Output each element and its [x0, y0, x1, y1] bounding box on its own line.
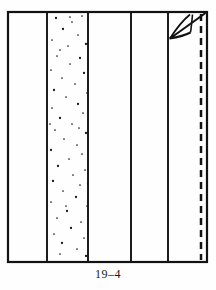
stipple-dot — [82, 112, 84, 114]
stipple-dot — [80, 221, 82, 223]
stipple-dot — [54, 129, 56, 131]
stipple-dot — [72, 174, 74, 176]
stipple-dot — [69, 16, 71, 18]
figure-root: 19–4 — [0, 0, 216, 290]
stipple-dot — [56, 55, 58, 57]
stipple-dot — [49, 123, 51, 125]
outer-frame — [8, 12, 207, 262]
stipple-dot — [52, 180, 54, 182]
stipple-dot — [79, 57, 81, 59]
stipple-dot — [50, 201, 52, 203]
stipple-dot — [50, 69, 52, 71]
stipple-dot — [83, 72, 85, 74]
stipple-dot — [79, 184, 81, 186]
figure-caption: 19–4 — [0, 267, 216, 282]
stipple-dot — [74, 83, 76, 85]
stipple-dot — [71, 123, 73, 125]
stipple-dot — [53, 233, 55, 235]
pattern-diagram — [0, 0, 216, 290]
stipple-dot — [68, 158, 70, 160]
stipple-dot — [63, 138, 65, 140]
stipple-dot — [183, 25, 185, 27]
stipple-dot — [76, 248, 78, 250]
stipple-dot — [62, 190, 64, 192]
stipple-dot — [83, 237, 85, 239]
stipple-dot — [65, 96, 67, 98]
stipple-dot — [81, 15, 83, 17]
stipple-dot — [55, 17, 57, 19]
stipple-dot — [77, 103, 79, 105]
stipple-dot — [61, 77, 63, 79]
stipple-dot — [76, 144, 78, 146]
stipple-dot — [77, 34, 79, 36]
stipple-dot — [89, 66, 91, 68]
stipple-fill-panel-2 — [49, 15, 91, 257]
stipple-dot — [56, 217, 58, 219]
stipple-dot — [71, 21, 73, 23]
stipple-dot — [78, 127, 80, 129]
stipple-dot — [51, 39, 53, 41]
stipple-dot — [84, 169, 86, 171]
stipple-dot — [70, 227, 72, 229]
stipple-dot — [75, 196, 77, 198]
stipple-dot — [61, 242, 63, 244]
stipple-dot — [69, 63, 71, 65]
stipple-dot — [59, 49, 61, 51]
stipple-dot — [59, 117, 61, 119]
stipple-dot — [62, 28, 64, 30]
stipple-dot — [195, 15, 197, 17]
stipple-dot — [187, 22, 189, 24]
stipple-dot — [57, 165, 59, 167]
stipple-dot — [85, 43, 87, 45]
stipple-dot — [85, 132, 87, 134]
stipple-dot — [53, 89, 55, 91]
stipple-dot — [65, 205, 67, 207]
stipple-dot — [66, 210, 68, 212]
stipple-dot — [59, 253, 61, 255]
stipple-dot — [85, 255, 87, 257]
stipple-dot — [67, 45, 69, 47]
folded-corner-dart — [170, 13, 206, 39]
stipple-dot — [81, 153, 83, 155]
stipple-dot — [198, 14, 200, 16]
stipple-dot — [51, 107, 53, 109]
stipple-dot — [50, 149, 52, 151]
